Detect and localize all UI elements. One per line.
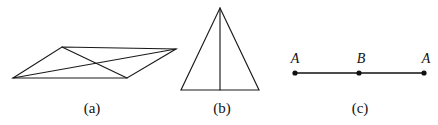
caption-b: (b) <box>213 100 231 117</box>
figure-container: A B A (a) (b) (c) <box>0 0 438 125</box>
point-label-a-left: A <box>290 51 300 66</box>
geometry-figure: A B A (a) (b) (c) <box>0 0 438 125</box>
parallelogram-diagonal-top-bottom <box>62 47 127 78</box>
caption-a: (a) <box>84 100 101 117</box>
point-label-a-right: A <box>421 51 431 66</box>
panel-a-parallelogram <box>13 47 176 78</box>
caption-c: (c) <box>352 100 369 117</box>
point-dot-a-right <box>421 70 426 75</box>
point-label-b-middle: B <box>357 51 366 66</box>
point-dot-b-middle <box>356 70 361 75</box>
panel-c-segment: A B A <box>290 51 431 76</box>
point-dot-a-left <box>292 70 297 75</box>
panel-b-triangle <box>181 8 259 90</box>
